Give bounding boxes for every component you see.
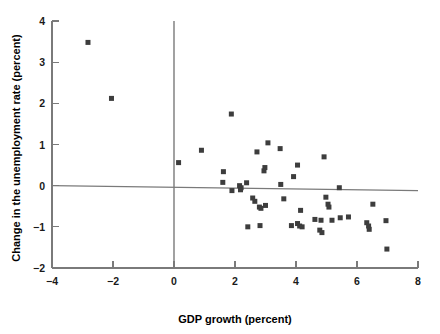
x-tick-label: −2 [107, 275, 119, 287]
data-point [244, 180, 249, 185]
data-point [384, 247, 389, 252]
data-point [258, 223, 263, 228]
data-point [319, 218, 324, 223]
y-tick-label: 3 [39, 56, 45, 68]
data-point [295, 163, 300, 168]
data-point [199, 148, 204, 153]
x-tick-label: 0 [171, 275, 177, 287]
data-point [370, 202, 375, 207]
data-point [278, 146, 283, 151]
data-point [322, 154, 327, 159]
data-point [326, 205, 331, 210]
data-point [258, 206, 263, 211]
scatter-chart: −2−101234−4−202468 GDP growth (percent) … [0, 0, 440, 334]
x-tick-label: 4 [293, 275, 299, 287]
y-tick-label: 0 [39, 180, 45, 192]
data-point [85, 40, 90, 45]
x-tick-label: 6 [354, 275, 360, 287]
x-tick-label: 8 [415, 275, 421, 287]
data-points-group [85, 40, 389, 252]
data-point [263, 203, 268, 208]
y-tick-label: −2 [33, 262, 45, 274]
data-point [338, 215, 343, 220]
trend-line [52, 186, 418, 191]
y-tick-label: −1 [33, 221, 45, 233]
data-point [312, 217, 317, 222]
data-point [337, 185, 342, 190]
x-tick-label: −4 [46, 275, 58, 287]
data-point [367, 227, 372, 232]
tick-marks-group [52, 21, 418, 268]
tick-labels-group: −2−101234−4−202468 [33, 15, 421, 287]
data-point [220, 180, 225, 185]
data-point [262, 165, 267, 170]
data-point [329, 218, 334, 223]
data-point [298, 208, 303, 213]
data-point [109, 96, 114, 101]
data-point [265, 140, 270, 145]
data-point [319, 230, 324, 235]
data-point [254, 149, 259, 154]
data-point [238, 187, 243, 192]
plot-area: −2−101234−4−202468 GDP growth (percent) … [0, 0, 440, 334]
x-tick-label: 2 [232, 275, 238, 287]
axis-lines-group [52, 21, 418, 268]
x-axis-title: GDP growth (percent) [178, 313, 292, 325]
data-point [300, 224, 305, 229]
y-axis-title: Change in the unemployment rate (percent… [10, 34, 22, 262]
y-tick-label: 4 [39, 15, 45, 27]
data-point [229, 112, 234, 117]
data-point [176, 160, 181, 165]
data-point [281, 196, 286, 201]
reference-lines-group [52, 21, 418, 268]
data-point [221, 169, 226, 174]
data-point [278, 182, 283, 187]
data-point [245, 224, 250, 229]
y-tick-label: 2 [39, 97, 45, 109]
data-point [383, 218, 388, 223]
data-point [323, 195, 328, 200]
data-point [229, 188, 234, 193]
data-point [346, 214, 351, 219]
data-point [252, 199, 257, 204]
data-point [289, 223, 294, 228]
data-point [291, 174, 296, 179]
y-tick-label: 1 [39, 139, 45, 151]
